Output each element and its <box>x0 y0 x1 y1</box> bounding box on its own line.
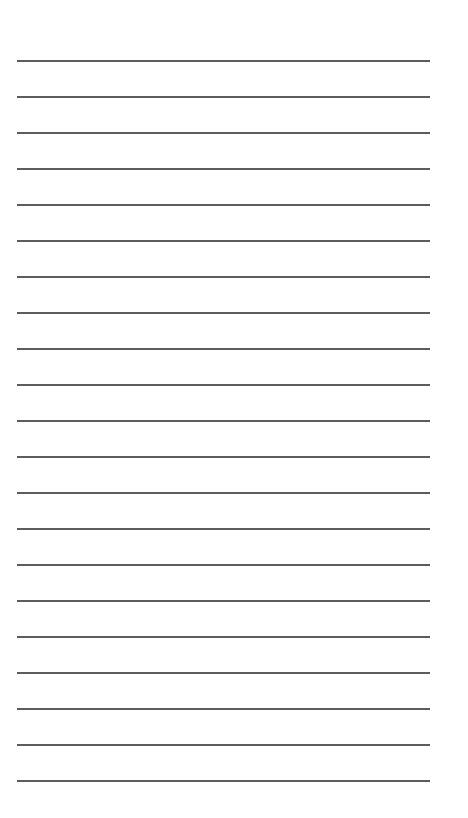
ruled-line <box>17 168 430 170</box>
ruled-line <box>17 348 430 350</box>
ruled-line <box>17 60 430 62</box>
ruled-line <box>17 492 430 494</box>
ruled-line <box>17 564 430 566</box>
ruled-line <box>17 312 430 314</box>
ruled-line <box>17 708 430 710</box>
ruled-line <box>17 672 430 674</box>
lined-paper-page <box>0 0 468 818</box>
ruled-line <box>17 456 430 458</box>
ruled-line <box>17 636 430 638</box>
ruled-line <box>17 204 430 206</box>
ruled-line <box>17 420 430 422</box>
ruled-line <box>17 744 430 746</box>
ruled-line <box>17 600 430 602</box>
ruled-line <box>17 384 430 386</box>
ruled-line <box>17 240 430 242</box>
ruled-line <box>17 780 430 782</box>
ruled-line <box>17 528 430 530</box>
ruled-line <box>17 276 430 278</box>
ruled-line <box>17 132 430 134</box>
ruled-line <box>17 96 430 98</box>
